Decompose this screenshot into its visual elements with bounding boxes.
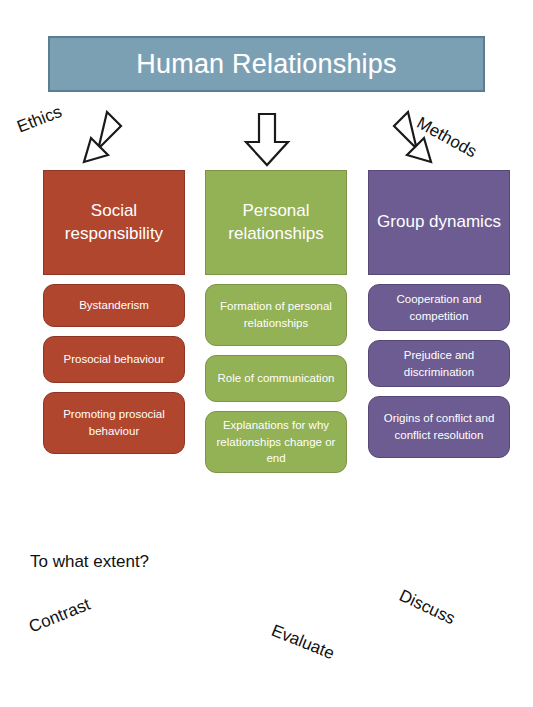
diagram-title: Human Relationships [48, 36, 485, 92]
topic-box[interactable]: Prejudice and discrimination [368, 340, 510, 387]
topic-label: Origins of conflict and conflict resolut… [377, 410, 501, 443]
topic-label: Bystanderism [79, 297, 149, 314]
command-term-evaluate: Evaluate [268, 621, 337, 664]
topic-label: Cooperation and competition [377, 291, 501, 324]
topic-box[interactable]: Prosocial behaviour [43, 336, 185, 383]
diagram-canvas: Human Relationships Ethics Methods Socia… [0, 0, 533, 707]
command-term-discuss: Discuss [396, 586, 458, 629]
column-personal-relationships: Personal relationships Formation of pers… [205, 170, 347, 473]
topic-label: Prejudice and discrimination [377, 347, 501, 380]
topic-box[interactable]: Role of communication [205, 355, 347, 402]
topic-box[interactable]: Origins of conflict and conflict resolut… [368, 396, 510, 458]
column-heading-text: Personal relationships [212, 200, 340, 244]
command-term-to-what-extent: To what extent? [30, 552, 149, 572]
topic-label: Explanations for why relationships chang… [214, 417, 338, 467]
topic-box[interactable]: Bystanderism [43, 284, 185, 327]
arrow-down-icon [240, 112, 294, 168]
topic-box[interactable]: Explanations for why relationships chang… [205, 411, 347, 473]
topic-label: Promoting prosocial behaviour [52, 406, 176, 439]
arrow-down-left-icon [55, 110, 125, 172]
topic-label: Prosocial behaviour [63, 351, 164, 368]
command-term-contrast: Contrast [26, 595, 93, 638]
topic-label: Formation of personal relationships [214, 298, 338, 331]
topic-box[interactable]: Cooperation and competition [368, 284, 510, 331]
topic-box[interactable]: Formation of personal relationships [205, 284, 347, 346]
column-group-dynamics: Group dynamics Cooperation and competiti… [368, 170, 510, 458]
arrow-down-right-icon [392, 110, 462, 172]
column-heading-text: Group dynamics [377, 211, 501, 233]
diagram-title-text: Human Relationships [136, 49, 396, 80]
column-heading-personal-relationships: Personal relationships [205, 170, 347, 275]
topic-label: Role of communication [218, 370, 335, 387]
column-heading-group-dynamics: Group dynamics [368, 170, 510, 275]
column-social-responsibility: Social responsibility Bystanderism Proso… [43, 170, 185, 454]
column-heading-text: Social responsibility [50, 200, 178, 244]
topic-box[interactable]: Promoting prosocial behaviour [43, 392, 185, 454]
column-heading-social-responsibility: Social responsibility [43, 170, 185, 275]
